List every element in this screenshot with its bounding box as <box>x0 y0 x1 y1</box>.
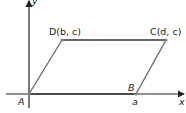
x-axis-label: x <box>179 97 185 107</box>
side-da <box>29 40 62 94</box>
side-bc <box>136 40 166 94</box>
y-axis-label: y <box>32 0 38 6</box>
point-b-coord-label: a <box>132 97 138 107</box>
diagram-canvas <box>0 0 186 113</box>
vertex-a <box>27 92 30 95</box>
point-a-label: A <box>18 97 25 107</box>
vertex-d <box>60 38 63 41</box>
vertex-c <box>164 38 167 41</box>
point-b-label: B <box>128 83 135 93</box>
point-d-label: D(b, c) <box>49 27 81 37</box>
point-c-label: C(d, c) <box>150 27 181 37</box>
